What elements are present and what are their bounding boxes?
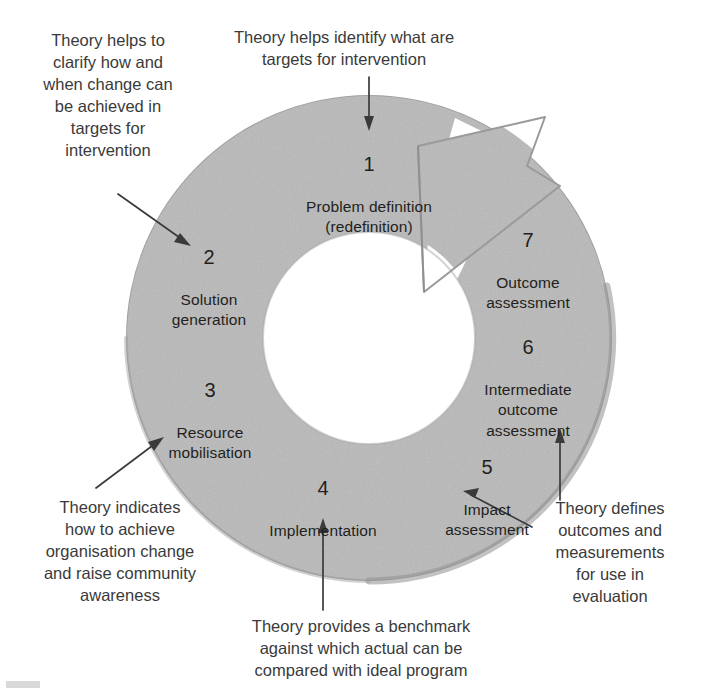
cycle-step-6: 6 Intermediate outcome assessment <box>446 314 610 461</box>
cycle-step-2-label: Solution generation <box>139 290 279 330</box>
cycle-step-4-number: 4 <box>243 475 403 502</box>
note-top-left: Theory helps to clarify how and when cha… <box>12 30 204 162</box>
note-top: Theory helps identify what are targets f… <box>197 27 491 71</box>
cycle-step-1: 1 Problem definition (redefinition) <box>283 131 455 258</box>
cycle-step-7-number: 7 <box>452 227 604 254</box>
page-corner-marker <box>6 681 40 688</box>
cycle-step-7: 7 Outcome assessment <box>452 207 604 334</box>
cycle-step-4: 4 Implementation <box>243 455 403 562</box>
cycle-step-6-number: 6 <box>446 334 610 361</box>
cycle-step-7-label: Outcome assessment <box>452 273 604 313</box>
cycle-step-6-label: Intermediate outcome assessment <box>446 380 610 440</box>
note-bottom: Theory provides a benchmark against whic… <box>196 616 526 682</box>
note-bottom-left: Theory indicates how to achieve organisa… <box>6 497 234 607</box>
note-bottom-right: Theory defines outcomes and measurements… <box>520 498 700 608</box>
cycle-step-2: 2 Solution generation <box>139 224 279 351</box>
cycle-step-3-number: 3 <box>134 377 286 404</box>
cycle-step-2-number: 2 <box>139 244 279 271</box>
cycle-step-4-label: Implementation <box>243 521 403 541</box>
diagram-canvas: 1 Problem definition (redefinition) 2 So… <box>0 0 706 692</box>
cycle-step-1-label: Problem definition (redefinition) <box>283 197 455 237</box>
cycle-step-1-number: 1 <box>283 151 455 178</box>
